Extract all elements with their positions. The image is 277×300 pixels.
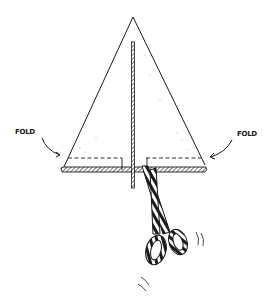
fold-arrow-right-icon (211, 140, 232, 157)
cut-line (132, 42, 135, 188)
illustration: FOLD FOLD (0, 0, 277, 300)
fold-label-left: FOLD (15, 128, 35, 136)
paper-craft-drawing (0, 0, 277, 300)
fold-label-right: FOLD (237, 130, 257, 138)
scissors-icon (142, 166, 191, 267)
